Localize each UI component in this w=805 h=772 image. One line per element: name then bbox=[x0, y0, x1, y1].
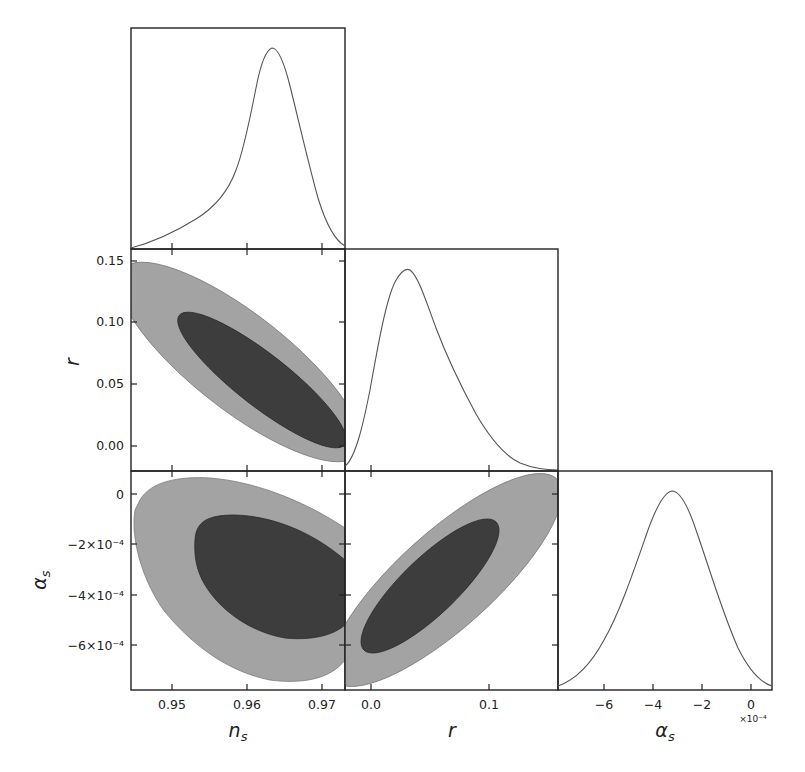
panel-frame bbox=[558, 471, 772, 690]
ns-tick-label: 0.97 bbox=[308, 697, 336, 712]
alphas-tick-label: −4 bbox=[644, 697, 662, 712]
r-axis-label-y: r bbox=[61, 357, 83, 366]
alphas-tick-label: −4×10⁻⁴ bbox=[68, 588, 124, 603]
alphas-posterior-curve bbox=[558, 491, 772, 686]
panel-frame bbox=[345, 249, 558, 471]
alphas-tick-label: −2×10⁻⁴ bbox=[68, 537, 124, 552]
panel-frame bbox=[131, 28, 345, 249]
alphas-tick-label: −6×10⁻⁴ bbox=[68, 638, 124, 653]
corner-plot: 0.15 0.10 0.05 0.00 r 0 bbox=[0, 0, 805, 772]
ns-tick-label: 0.96 bbox=[233, 697, 261, 712]
alphas-tick-label: 0 bbox=[747, 697, 755, 712]
r-axis-label-x: r bbox=[448, 719, 457, 741]
r-posterior-curve bbox=[345, 269, 558, 470]
alphas-tick-label: −2 bbox=[693, 697, 711, 712]
alphas-tick-label: −6 bbox=[595, 697, 613, 712]
alphas-tick-label: 0 bbox=[116, 487, 124, 502]
alphas-axis-label-y: αs bbox=[28, 570, 53, 590]
r-tick-label: 0.05 bbox=[96, 376, 124, 391]
alphas-axis-label-x: αs bbox=[655, 719, 675, 744]
ns-tick-label: 0.95 bbox=[158, 697, 186, 712]
ns-axis-label-x: ns bbox=[229, 719, 248, 744]
panel-r-vs-ns: 0.15 0.10 0.05 0.00 r bbox=[61, 232, 388, 492]
ns-posterior-curve bbox=[131, 48, 345, 248]
panel-alphas-vs-r: 0.0 0.1 r bbox=[302, 444, 589, 741]
r-tick-label: 0.10 bbox=[96, 314, 124, 329]
r-tick-label: 0.0 bbox=[361, 697, 381, 712]
alphas-offset-label: ×10⁻⁴ bbox=[739, 714, 767, 724]
r-tick-label: 0.15 bbox=[96, 253, 124, 268]
panel-r-marginal bbox=[345, 249, 558, 471]
panel-alphas-vs-ns: 0 −2×10⁻⁴ −4×10⁻⁴ −6×10⁻⁴ 0.95 0.96 0.97… bbox=[28, 471, 345, 744]
r-tick-label: 0.1 bbox=[479, 697, 499, 712]
panel-ns-marginal bbox=[131, 28, 345, 249]
r-tick-label: 0.00 bbox=[96, 438, 124, 453]
panel-alphas-marginal: −6 −4 −2 0 ×10⁻⁴ αs bbox=[558, 471, 772, 744]
